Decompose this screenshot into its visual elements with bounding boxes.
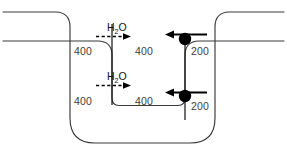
lower-mid-flow-label: 400: [135, 96, 153, 107]
upper-water-label: H2O: [107, 22, 127, 35]
upper-water-oxygen: O: [119, 21, 127, 33]
lower-valve-node: [179, 90, 191, 102]
flow-network-figure: [0, 0, 287, 154]
upper-left-flow-label: 400: [74, 46, 92, 57]
lower-water-label: H2O: [107, 71, 127, 84]
upper-right-flow-label: 200: [191, 46, 209, 57]
upper-water-symbol: H: [107, 21, 115, 33]
lower-left-flow-label: 400: [74, 96, 92, 107]
outer-trench-outline: [3, 12, 284, 143]
lower-water-oxygen: O: [119, 70, 127, 82]
upper-mid-flow-label: 400: [135, 46, 153, 57]
upper-valve-node: [179, 33, 191, 45]
lower-water-symbol: H: [107, 70, 115, 82]
diagram-canvas: 400 400 200 400 400 200 H2O H2O: [0, 0, 287, 154]
lower-right-flow-label: 200: [191, 101, 209, 112]
